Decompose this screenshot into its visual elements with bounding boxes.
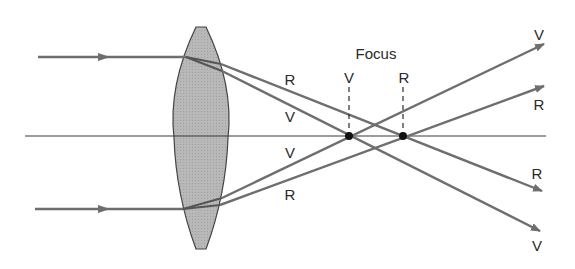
out-top-v-label: V <box>534 27 544 42</box>
focus-v-label: V <box>344 70 354 85</box>
top-v-mid-label: V <box>285 109 295 124</box>
top-r-mid-label: R <box>285 72 296 87</box>
out-bottom-r-label: R <box>532 166 543 181</box>
lens-diagram: Focus V R R V V R V R R V <box>0 0 575 269</box>
focus-label: Focus <box>356 46 397 61</box>
out-bottom-v-label: V <box>532 238 542 253</box>
focus-point-violet <box>345 132 353 140</box>
focus-r-label: R <box>399 70 410 85</box>
bottom-r-mid-label: R <box>285 187 296 202</box>
out-top-r-label: R <box>534 97 545 112</box>
arrow-icon-incoming-bottom <box>98 205 110 213</box>
ray-top-violet <box>222 71 540 231</box>
ray-bottom-red <box>220 86 544 205</box>
arrow-icon-incoming-top <box>98 53 110 61</box>
ray-bottom-violet <box>222 44 544 198</box>
bottom-v-mid-label: V <box>285 145 295 160</box>
focus-point-red <box>399 132 407 140</box>
diagram-canvas <box>0 0 575 269</box>
ray-top-red <box>221 64 542 191</box>
